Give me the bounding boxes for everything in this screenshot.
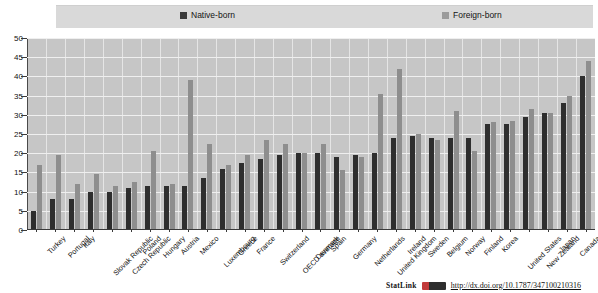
statlink-label: StatLink [386, 281, 417, 290]
y-axis-tick [21, 230, 27, 231]
bar-foreign [548, 113, 553, 230]
x-axis-tick [548, 229, 549, 232]
bar-native [50, 199, 55, 230]
bar-native [466, 138, 471, 230]
bar-foreign [207, 144, 212, 230]
x-axis-tick [36, 229, 37, 232]
bar-foreign [340, 170, 345, 230]
bar-foreign [264, 140, 269, 230]
bar-series-container [27, 38, 595, 230]
legend-label-foreign: Foreign-born [453, 10, 502, 20]
bar-native [391, 138, 396, 230]
x-axis-tick [169, 229, 170, 232]
x-axis-tick-label: Canada [577, 234, 598, 258]
bar-foreign [56, 155, 61, 230]
bar-native [504, 124, 509, 230]
bar-native [31, 211, 36, 230]
x-axis-tick [302, 229, 303, 232]
bar-native [126, 188, 131, 230]
x-axis-tick [112, 229, 113, 232]
x-axis-tick [207, 229, 208, 232]
x-axis-tick [245, 229, 246, 232]
x-axis-tick [510, 229, 511, 232]
x-axis-tick [339, 229, 340, 232]
bar-foreign [226, 165, 231, 230]
x-axis-tick [150, 229, 151, 232]
legend-item-foreign-born: Foreign-born [442, 10, 502, 20]
bar-native [201, 178, 206, 230]
x-axis-tick [434, 229, 435, 232]
x-axis-tick [226, 229, 227, 232]
statlink-badge-icon [422, 282, 446, 290]
bar-foreign [132, 182, 137, 230]
bar-foreign [359, 157, 364, 230]
bar-foreign [378, 94, 383, 230]
bar-foreign [472, 151, 477, 230]
bar-native [485, 124, 490, 230]
x-axis-tick-label: Germany [351, 234, 379, 262]
bar-native [182, 186, 187, 230]
legend-item-native-born: Native-born [180, 10, 235, 20]
bar-native [429, 138, 434, 230]
x-axis-tick [586, 229, 587, 232]
x-axis-tick [93, 229, 94, 232]
bar-native [372, 153, 377, 230]
bar-foreign [283, 144, 288, 230]
bar-foreign [321, 144, 326, 230]
bar-foreign [454, 111, 459, 230]
bar-native [315, 153, 320, 230]
bar-foreign [113, 186, 118, 230]
bar-native [220, 169, 225, 230]
bar-native [448, 138, 453, 230]
bar-foreign [586, 61, 591, 230]
x-axis-tick [491, 229, 492, 232]
bar-native [334, 157, 339, 230]
bar-native [296, 153, 301, 230]
x-axis-tick [74, 229, 75, 232]
x-axis-tick-label: Mexico [198, 234, 221, 257]
x-axis-tick [320, 229, 321, 232]
bar-native [277, 155, 282, 230]
legend-swatch-native-icon [180, 12, 187, 19]
bar-foreign [567, 96, 572, 230]
bar-foreign [529, 109, 534, 230]
legend-label-native: Native-born [191, 10, 235, 20]
x-axis-tick [567, 229, 568, 232]
bar-native [107, 192, 112, 230]
bar-native [580, 76, 585, 230]
bar-native [410, 136, 415, 230]
bar-native [88, 192, 93, 230]
bar-foreign [170, 184, 175, 230]
bar-foreign [491, 122, 496, 230]
x-axis-tick-label: France [254, 234, 276, 256]
x-axis-tick [55, 229, 56, 232]
bar-foreign [188, 80, 193, 230]
statlink-url-link[interactable]: http://dx.doi.org/10.1787/347100210316 [451, 281, 581, 290]
plot-area [27, 38, 595, 230]
bar-native [542, 113, 547, 230]
statlink-footer: StatLink http://dx.doi.org/10.1787/34710… [386, 281, 581, 290]
bar-foreign [416, 134, 421, 230]
chart-legend: Native-born Foreign-born [56, 5, 593, 28]
x-axis-tick [283, 229, 284, 232]
bar-foreign [245, 155, 250, 230]
bar-native [353, 155, 358, 230]
x-axis-tick [264, 229, 265, 232]
bar-native [258, 159, 263, 230]
bar-foreign [435, 140, 440, 230]
bar-foreign [302, 153, 307, 230]
x-axis-tick-label: Turkey [46, 234, 68, 256]
x-axis-tick [529, 229, 530, 232]
bar-foreign [37, 165, 42, 230]
bar-native [561, 103, 566, 230]
bar-native [145, 186, 150, 230]
x-axis-tick [131, 229, 132, 232]
y-axis: 05101520253035404550 [0, 38, 27, 230]
bar-native [523, 117, 528, 230]
x-axis-tick [472, 229, 473, 232]
bar-foreign [397, 69, 402, 230]
bar-foreign [151, 151, 156, 230]
bar-foreign [75, 184, 80, 230]
bar-native [239, 163, 244, 230]
x-axis-tick [453, 229, 454, 232]
